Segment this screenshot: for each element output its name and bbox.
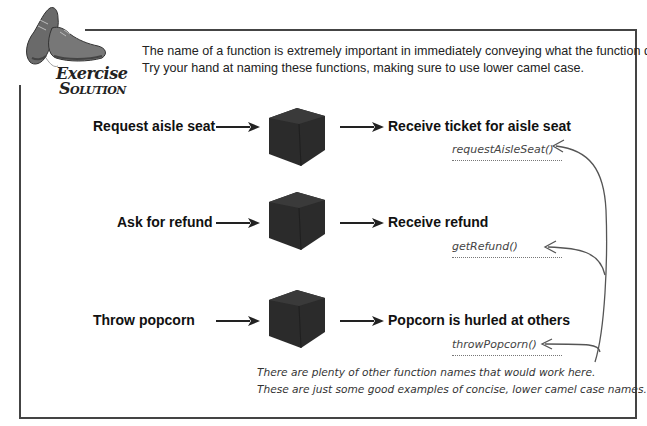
arrow-right-icon (216, 218, 260, 228)
arrow-right-icon (216, 122, 260, 132)
black-box-icon (263, 108, 329, 166)
answer-underline-2 (452, 257, 562, 258)
input-label-2: Ask for refund (117, 214, 213, 230)
black-box-icon (263, 290, 329, 348)
frame-bottom-border (19, 417, 637, 419)
frame-right-border (635, 29, 637, 419)
answer-underline-3 (452, 355, 562, 356)
intro-text: The name of a function is extremely impo… (142, 43, 632, 77)
answer-1: requestAisleSeat() (452, 143, 554, 156)
intro-line2: Try your hand at naming these functions,… (142, 60, 632, 77)
output-label-2: Receive refund (388, 214, 488, 230)
solution-note: There are plenty of other function names… (257, 364, 647, 398)
exercise-solution-badge: Exercise Solution (18, 0, 118, 86)
answer-2: getRefund() (452, 240, 518, 253)
answer-underline-1 (452, 160, 562, 161)
output-label-3: Popcorn is hurled at others (388, 312, 570, 328)
arrow-right-icon (340, 316, 384, 326)
badge-title: Exercise Solution (56, 66, 127, 96)
frame-left-border (19, 85, 21, 419)
frame-top-border (85, 29, 637, 31)
input-label-3: Throw popcorn (93, 312, 195, 328)
note-line2: These are just some good examples of con… (257, 381, 647, 398)
arrow-right-icon (216, 316, 260, 326)
arrow-right-icon (340, 218, 384, 228)
black-box-icon (263, 192, 329, 250)
badge-title-line2: Solution (56, 81, 127, 96)
output-label-1: Receive ticket for aisle seat (388, 118, 571, 134)
intro-line1: The name of a function is extremely impo… (142, 43, 632, 60)
arrow-right-icon (340, 122, 384, 132)
input-label-1: Request aisle seat (93, 118, 215, 134)
answer-3: throwPopcorn() (452, 338, 537, 351)
note-line1: There are plenty of other function names… (257, 364, 647, 381)
sneakers-icon (18, 0, 118, 70)
